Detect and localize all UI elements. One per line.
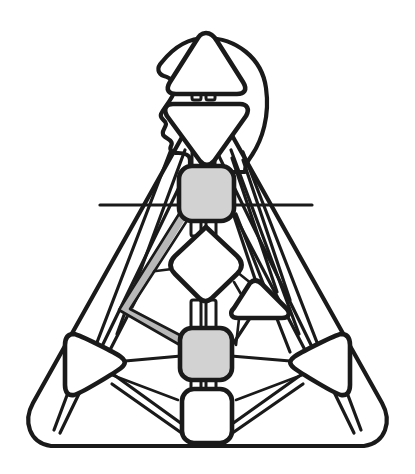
upper-gray-square-node[interactable] (179, 166, 234, 221)
diagram-root: Stylized triangular network diagram with… (0, 0, 415, 474)
lower-gray-square-node[interactable] (180, 328, 232, 380)
double-bar-connector (191, 300, 216, 330)
network-diagram-figure: Stylized triangular network diagram with… (0, 0, 415, 474)
inverted-triangle-node[interactable] (165, 104, 248, 165)
bottom-white-square-node[interactable] (182, 389, 232, 443)
center-diamond-node[interactable] (171, 227, 242, 301)
